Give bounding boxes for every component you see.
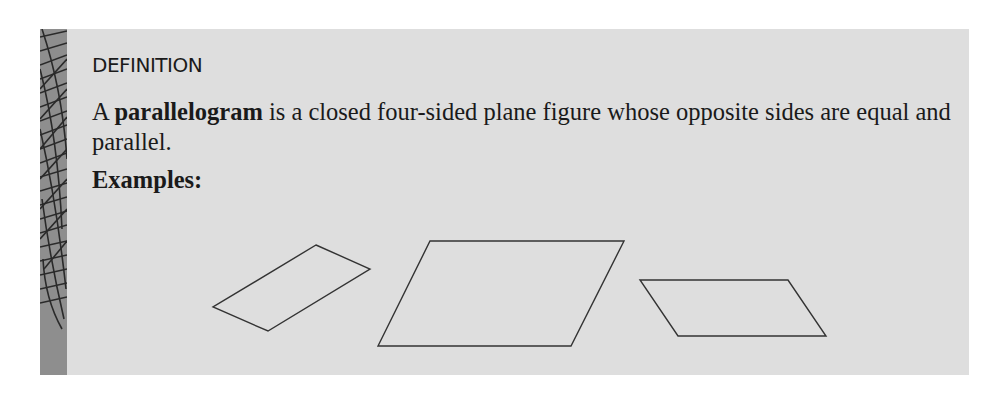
parallelogram-2 <box>378 241 624 346</box>
parallelogram-1 <box>213 245 370 331</box>
parallelogram-3 <box>640 280 826 336</box>
example-figures <box>0 0 998 398</box>
